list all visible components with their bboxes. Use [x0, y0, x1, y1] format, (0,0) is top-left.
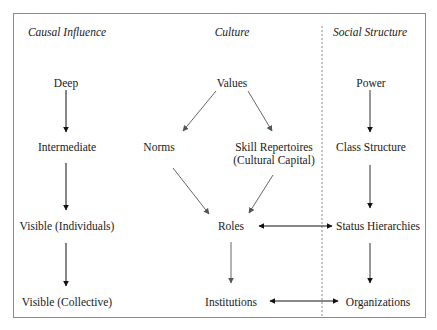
level-visible-individuals: Visible (Individuals): [20, 220, 115, 233]
arrow-skills-to-roles: [249, 175, 273, 213]
node-roles: Roles: [218, 220, 244, 233]
node-skill-repertoires: Skill Repertoires (Cultural Capital): [233, 141, 314, 167]
skill-repertoires-line2: (Cultural Capital): [233, 154, 314, 167]
level-deep: Deep: [54, 77, 78, 90]
node-status-hierarchies: Status Hierarchies: [336, 220, 420, 233]
arrow-values-to-norms: [183, 91, 216, 131]
arrow-norms-to-roles: [173, 168, 209, 214]
header-social-structure: Social Structure: [333, 26, 407, 39]
arrow-values-to-skills: [248, 91, 272, 131]
header-culture: Culture: [215, 26, 250, 39]
skill-repertoires-line1: Skill Repertoires: [233, 141, 314, 154]
node-norms: Norms: [143, 141, 174, 154]
node-values: Values: [217, 77, 248, 90]
node-class-structure: Class Structure: [336, 141, 406, 154]
node-organizations: Organizations: [346, 296, 410, 309]
header-causal-influence: Causal Influence: [28, 26, 106, 39]
diagram-arrows: [0, 0, 437, 330]
node-power: Power: [356, 77, 385, 90]
level-intermediate: Intermediate: [38, 141, 96, 154]
node-institutions: Institutions: [205, 296, 257, 309]
level-visible-collective: Visible (Collective): [22, 296, 112, 309]
